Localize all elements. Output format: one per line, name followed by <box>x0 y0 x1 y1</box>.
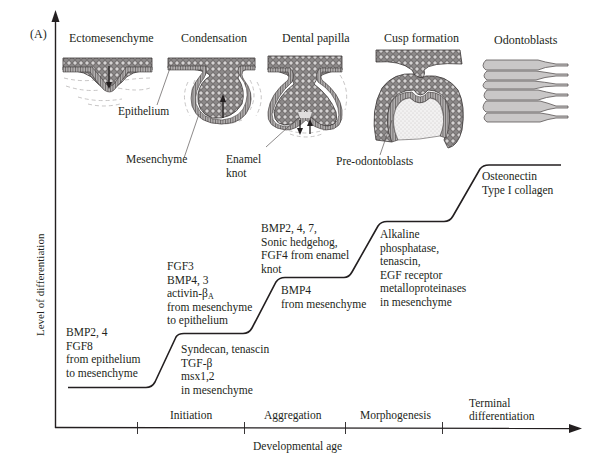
annotation-step1-below: Syndecan, tenascin TGF-β msx1,2 in mesen… <box>181 343 269 397</box>
label-enamel-knot-line1: Enamel <box>226 153 261 167</box>
phase-label-initiation: Initiation <box>170 409 212 423</box>
y-axis-arrow-icon <box>52 10 60 22</box>
ectomesenchyme-illustration <box>63 58 152 106</box>
panel-label: (A) <box>30 28 47 42</box>
phase-label-morphogenesis: Morphogenesis <box>360 409 431 423</box>
differentiation-staircase-curve <box>68 165 561 388</box>
x-axis-arrow-icon <box>569 424 582 433</box>
odontoblasts-illustration <box>483 60 568 122</box>
stage-title-cusp-formation: Cusp formation <box>384 32 459 46</box>
x-axis <box>55 422 582 434</box>
stage-title-ectomesenchyme: Ectomesenchyme <box>69 32 154 46</box>
stage-title-dental-papilla: Dental papilla <box>282 32 350 46</box>
annotation-step3-below: Alkaline phosphatase, tenascin, EGF rece… <box>380 228 466 309</box>
phase-label-aggregation: Aggregation <box>264 409 321 423</box>
stage-title-condensation: Condensation <box>181 32 247 46</box>
phase-label-terminal-line2: differentiation <box>469 410 535 424</box>
y-axis-label: Level of differentiation <box>34 234 46 336</box>
label-enamel-knot-line2: knot <box>226 167 246 181</box>
label-pre-odontoblasts: Pre-odontoblasts <box>336 155 413 169</box>
phase-label-terminal-line1: Terminal <box>469 397 510 411</box>
arrow-down-icon <box>297 128 303 135</box>
stage-title-odontoblasts: Odontoblasts <box>494 34 557 48</box>
annotation-step1-above: FGF3 BMP4, 3 activin-βA from mesenchyme … <box>167 260 252 328</box>
dental-papilla-illustration <box>268 56 347 137</box>
x-axis-label: Developmental age <box>253 440 342 454</box>
condensation-illustration <box>168 58 261 124</box>
annotation-step2-above: BMP2, 4, 7, Sonic hedgehog, FGF4 from en… <box>261 222 349 276</box>
y-axis <box>52 10 60 428</box>
annotation-step2-below: BMP4 from mesenchyme <box>281 284 366 311</box>
annotation-step0-above: BMP2, 4 FGF8 from epithelium to mesenchy… <box>66 326 140 380</box>
label-epithelium: Epithelium <box>118 105 169 119</box>
label-mesenchyme: Mesenchyme <box>126 153 187 167</box>
annotation-step4-below: Osteonectin Type I collagen <box>482 170 553 197</box>
